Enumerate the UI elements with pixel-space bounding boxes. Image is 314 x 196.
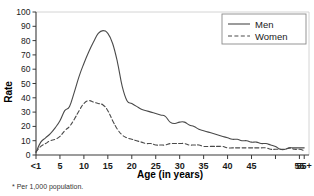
x-tick-label: 20 <box>127 161 137 171</box>
y-tick-label: 90 <box>21 21 31 31</box>
y-tick-label: 0 <box>26 150 31 160</box>
y-tick-label: 20 <box>21 121 31 131</box>
y-tick-label: 60 <box>21 64 31 74</box>
y-tick-label: 80 <box>21 36 31 46</box>
chart-canvas: 0102030405060708090100 <1510152025303540… <box>0 0 314 196</box>
x-tick-label: 45 <box>247 161 257 171</box>
y-tick-label: 40 <box>21 93 31 103</box>
x-tick-label: <1 <box>31 161 41 171</box>
y-tick-label: 30 <box>21 107 31 117</box>
y-axis-ticks: 0102030405060708090100 <box>16 7 36 160</box>
x-tick-label: 15 <box>103 161 113 171</box>
y-tick-label: 50 <box>21 79 31 89</box>
x-tick-label-end: 55+ <box>297 161 312 171</box>
chart-legend: MenWomen <box>222 14 306 44</box>
x-tick-label: 10 <box>79 161 89 171</box>
y-tick-label: 100 <box>16 7 30 17</box>
x-tick-label: 5 <box>57 161 62 171</box>
y-axis-label: Rate <box>3 81 14 103</box>
x-tick-label: 40 <box>223 161 233 171</box>
y-tick-label: 10 <box>21 136 31 146</box>
legend-label-women: Women <box>255 31 288 42</box>
legend-label-men: Men <box>255 19 273 30</box>
line-chart: 0102030405060708090100 <1510152025303540… <box>0 0 314 196</box>
series-line-men <box>36 31 304 153</box>
x-axis-label: Age (in years) <box>137 169 203 180</box>
chart-footnote: * Per 1,000 population. <box>12 183 83 191</box>
data-series-group <box>36 31 304 153</box>
series-line-women <box>36 101 304 153</box>
y-tick-label: 70 <box>21 50 31 60</box>
